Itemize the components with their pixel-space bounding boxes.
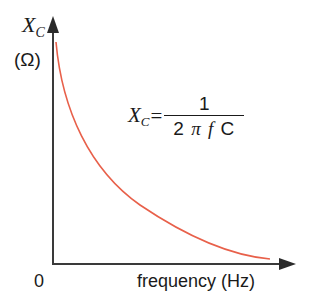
reactance-formula: XC = 1 2 π f C [128,94,244,138]
y-axis-unit-label: (Ω) [14,50,41,69]
reactance-plot [0,0,309,304]
y-axis-variable: X [22,12,35,37]
x-axis-arrow-icon [279,258,296,270]
formula-numerator: 1 [199,94,210,115]
denominator-c: C [221,118,236,139]
origin-label: 0 [34,272,44,290]
denominator-f: f [208,118,214,139]
formula-lhs-subscript: C [141,114,150,129]
y-axis-variable-subscript: C [35,25,44,40]
formula-fraction: 1 2 π f C [164,94,244,138]
x-axis-label: frequency (Hz) [137,272,255,290]
formula-lhs-variable: X [128,103,141,127]
y-axis-arrow-icon [47,16,59,33]
formula-denominator: 2 π f C [173,116,235,138]
denominator-pi: π [191,118,202,139]
y-axis-variable-label: XC [22,14,45,40]
formula-lhs: XC [128,105,150,128]
reactance-curve [56,42,270,259]
denominator-two: 2 [173,118,185,139]
formula-equals: = [151,106,163,127]
